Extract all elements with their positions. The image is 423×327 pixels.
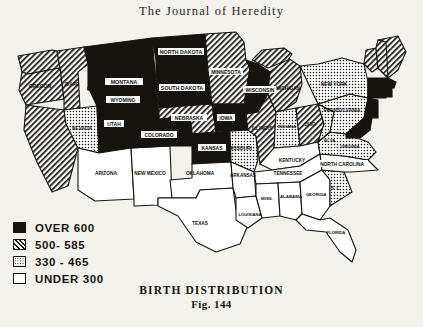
state-florida bbox=[296, 214, 356, 262]
figure-caption: BIRTH DISTRIBUTION Fig. 144 bbox=[0, 284, 423, 310]
caption-title: BIRTH DISTRIBUTION bbox=[0, 284, 423, 296]
legend-swatch-hatch-icon bbox=[13, 239, 26, 250]
state-rhode-island bbox=[386, 88, 392, 97]
state-new-mexico bbox=[131, 146, 172, 206]
state-massachusetts bbox=[368, 78, 396, 88]
legend-label-under-300: UNDER 300 bbox=[35, 273, 104, 285]
legend-label-over-600: OVER 600 bbox=[35, 222, 95, 234]
legend-label-330-465: 330 - 465 bbox=[35, 256, 89, 268]
state-texas bbox=[158, 188, 248, 252]
journal-header: The Journal of Heredity bbox=[0, 4, 423, 19]
legend-item-500-585: 500- 585 bbox=[13, 236, 153, 253]
legend-item-330-465: 330 - 465 bbox=[13, 253, 153, 270]
legend-swatch-blank-icon bbox=[13, 273, 26, 284]
state-oregon bbox=[19, 68, 64, 105]
map-legend: OVER 600 500- 585 330 - 465 UNDER 300 bbox=[13, 219, 153, 287]
legend-label-500-585: 500- 585 bbox=[35, 239, 85, 251]
state-alabama bbox=[278, 182, 302, 220]
caption-figure-number: Fig. 144 bbox=[0, 298, 423, 310]
legend-item-over-600: OVER 600 bbox=[13, 219, 153, 236]
state-new-hampshire bbox=[376, 40, 388, 78]
state-utah bbox=[97, 104, 131, 153]
legend-swatch-stipple-icon bbox=[13, 256, 26, 267]
state-connecticut bbox=[368, 88, 386, 98]
state-arizona bbox=[78, 148, 134, 201]
legend-swatch-solid-icon bbox=[13, 222, 26, 233]
state-idaho bbox=[57, 47, 88, 110]
